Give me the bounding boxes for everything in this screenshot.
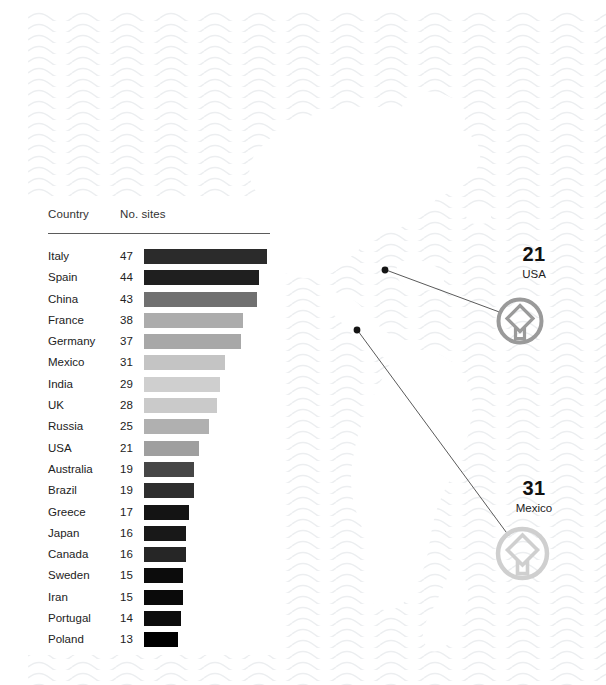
cell-country: Australia: [48, 463, 93, 475]
table-row: Brazil19: [48, 482, 270, 503]
cell-country: China: [48, 293, 78, 305]
cell-country: UK: [48, 399, 64, 411]
table-row: Italy47: [48, 248, 270, 269]
bar: [144, 483, 194, 498]
cell-country: Iran: [48, 591, 68, 603]
table-row: Spain44: [48, 269, 270, 290]
cell-site-count: 16: [120, 527, 133, 539]
bar: [144, 419, 209, 434]
cell-site-count: 17: [120, 506, 133, 518]
bar: [144, 547, 186, 562]
table-row: Portugal14: [48, 610, 270, 631]
bar: [144, 270, 259, 285]
table-row: Poland13: [48, 631, 270, 652]
bar: [144, 292, 257, 307]
cell-site-count: 37: [120, 335, 133, 347]
cell-site-count: 15: [120, 569, 133, 581]
cell-country: Canada: [48, 548, 88, 560]
bar: [144, 632, 178, 647]
bar: [144, 377, 220, 392]
table-row: Greece17: [48, 504, 270, 525]
callout-number-mexico: 31: [489, 477, 579, 500]
unesco-emblem-icon-mexico: [494, 525, 551, 582]
infographic-canvas: 21 USA 31 Mexico Country No. sites Italy…: [0, 0, 606, 685]
cell-site-count: 25: [120, 420, 133, 432]
column-header-country: Country: [48, 208, 89, 220]
bar: [144, 590, 183, 605]
bar: [144, 313, 243, 328]
cell-country: Spain: [48, 271, 77, 283]
cell-country: Mexico: [48, 356, 84, 368]
cell-site-count: 43: [120, 293, 133, 305]
cell-country: Greece: [48, 506, 86, 518]
cell-site-count: 28: [120, 399, 133, 411]
cell-site-count: 47: [120, 250, 133, 262]
table-row: China43: [48, 291, 270, 312]
table-row: Japan16: [48, 525, 270, 546]
column-header-sites: No. sites: [120, 208, 166, 220]
bar: [144, 441, 199, 456]
bar: [144, 355, 225, 370]
table-header-row: Country No. sites: [48, 208, 270, 234]
cell-site-count: 13: [120, 633, 133, 645]
table-row: Iran15: [48, 589, 270, 610]
cell-country: Portugal: [48, 612, 91, 624]
table-row: France38: [48, 312, 270, 333]
cell-site-count: 38: [120, 314, 133, 326]
bar: [144, 568, 183, 583]
table-body: Italy47Spain44China43France38Germany37Me…: [48, 248, 270, 653]
cell-country: Poland: [48, 633, 84, 645]
table-row: Germany37: [48, 333, 270, 354]
callout-number-usa: 21: [489, 243, 579, 266]
cell-site-count: 16: [120, 548, 133, 560]
cell-site-count: 31: [120, 356, 133, 368]
table-row: USA21: [48, 440, 270, 461]
cell-site-count: 14: [120, 612, 133, 624]
cell-country: Brazil: [48, 484, 77, 496]
cell-site-count: 19: [120, 484, 133, 496]
cell-country: Germany: [48, 335, 95, 347]
cell-site-count: 15: [120, 591, 133, 603]
cell-country: USA: [48, 442, 72, 454]
bar: [144, 398, 217, 413]
table-row: Australia19: [48, 461, 270, 482]
data-table-panel: Country No. sites Italy47Spain44China43F…: [28, 196, 280, 655]
bar: [144, 526, 186, 541]
bar: [144, 334, 241, 349]
cell-site-count: 21: [120, 442, 133, 454]
table-row: Canada16: [48, 546, 270, 567]
cell-site-count: 19: [120, 463, 133, 475]
cell-country: Italy: [48, 250, 69, 262]
cell-country: India: [48, 378, 73, 390]
callout-label-mexico: Mexico: [489, 502, 579, 514]
bar: [144, 611, 181, 626]
table-row: Sweden15: [48, 567, 270, 588]
cell-site-count: 29: [120, 378, 133, 390]
cell-country: France: [48, 314, 84, 326]
unesco-emblem-icon-usa: [495, 296, 545, 346]
callout-label-usa: USA: [489, 268, 579, 280]
bar: [144, 249, 267, 264]
cell-site-count: 44: [120, 271, 133, 283]
bar: [144, 505, 189, 520]
cell-country: Japan: [48, 527, 79, 539]
cell-country: Sweden: [48, 569, 90, 581]
table-row: India29: [48, 376, 270, 397]
table-row: UK28: [48, 397, 270, 418]
bar: [144, 462, 194, 477]
table-row: Mexico31: [48, 354, 270, 375]
cell-country: Russia: [48, 420, 83, 432]
table-row: Russia25: [48, 418, 270, 439]
